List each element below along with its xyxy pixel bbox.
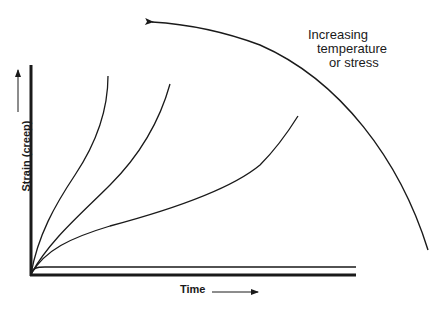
- annotation-line-3: or stress: [302, 56, 432, 70]
- x-axis-label: Time: [180, 283, 205, 295]
- curve-3: [31, 116, 298, 274]
- flat-curve: [31, 267, 356, 274]
- y-axis-label: Strain (creep): [20, 116, 32, 196]
- annotation-text: Increasing temperature or stress: [302, 28, 432, 70]
- annotation-line-2: temperature: [302, 42, 432, 56]
- annotation-line-1: Increasing: [302, 28, 432, 42]
- curve-2: [31, 84, 170, 274]
- curve-1: [31, 76, 108, 274]
